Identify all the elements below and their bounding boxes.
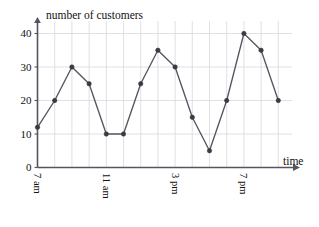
y-tick-label: 30 [12,62,32,73]
y-tick-label: 40 [12,28,32,39]
y-axis-title: number of customers [46,10,143,22]
x-tick-label: 3 pm [169,173,180,194]
x-axis-title: time [283,156,303,168]
y-tick-label: 0 [12,162,32,173]
x-tick-label: 7 pm [238,173,249,194]
chart-canvas [0,0,319,227]
y-tick-label: 20 [12,95,32,106]
y-tick-label: 10 [12,129,32,140]
horizontal-gridlines [38,34,293,135]
x-tick-label: 7 am [32,173,43,194]
vertical-gridlines [38,21,279,168]
line-chart: 010203040 7 am11 am3 pm7 pm number of cu… [0,0,319,227]
x-tick-label: 11 am [100,173,111,199]
chart-axes [34,17,300,171]
